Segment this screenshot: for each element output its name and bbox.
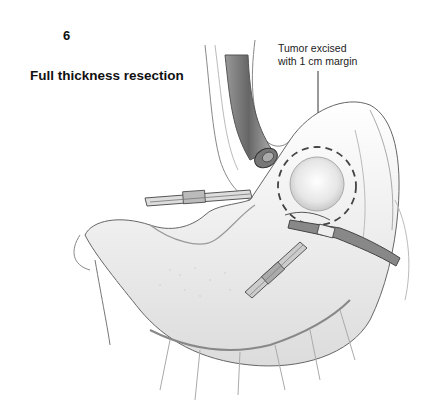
stomach [74, 102, 409, 400]
surgical-illustration [0, 0, 429, 411]
tumor [290, 157, 344, 211]
